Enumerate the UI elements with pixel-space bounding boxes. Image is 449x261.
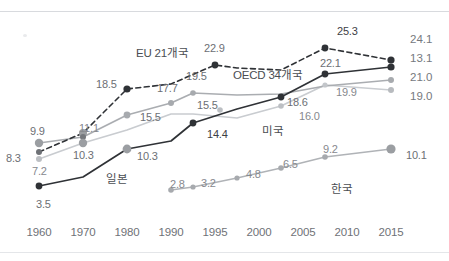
value-label-us-2005: 16.0 xyxy=(299,110,320,122)
series-label-us: 미국 xyxy=(262,122,284,138)
end-label-eu: 24.1 xyxy=(410,33,432,45)
data-point-oecd-2015 xyxy=(388,77,394,83)
data-point-oecd-1990 xyxy=(168,100,174,106)
value-label-japan-1960: 3.5 xyxy=(36,198,51,210)
value-label-us-1970: 10.3 xyxy=(73,149,94,161)
data-point-eu-2010 xyxy=(322,45,329,52)
value-label-eu-2010: 25.3 xyxy=(337,25,358,37)
data-point-eu-1980 xyxy=(123,85,130,92)
data-point-japan-1995 xyxy=(190,120,197,127)
value-label-korea-1995: 3.2 xyxy=(201,177,216,189)
series-label-japan: 일본 xyxy=(106,170,128,186)
value-label-eu-1980: 18.5 xyxy=(96,78,117,90)
value-label-korea-2005: 6.5 xyxy=(283,158,298,170)
end-label-oecd: 21.0 xyxy=(410,71,432,83)
value-label-korea-2015: 10.1 xyxy=(406,149,427,161)
value-label-japan-1995: 14.4 xyxy=(207,128,228,140)
data-point-us-2010 xyxy=(322,82,327,87)
data-point-us-2005 xyxy=(278,103,284,109)
data-point-japan-1960 xyxy=(36,183,43,190)
data-point-us-1960 xyxy=(36,156,42,162)
data-point-oecd-1980 xyxy=(124,112,131,119)
value-label-us-1995: 15.5 xyxy=(197,99,218,111)
data-point-japan-2015 xyxy=(387,63,394,70)
x-axis-tick-1995: 1995 xyxy=(202,226,227,238)
data-point-japan-2005 xyxy=(278,94,285,101)
series-label-eu: EU 21개국 xyxy=(136,44,189,60)
x-axis-tick-2005: 2005 xyxy=(290,226,315,238)
data-point-us-2015 xyxy=(388,87,394,93)
x-axis-tick-2015: 2015 xyxy=(378,226,403,238)
series-label-korea: 한국 xyxy=(331,180,353,196)
value-label-us-1960: 7.2 xyxy=(32,165,47,177)
x-axis-tick-1960: 1960 xyxy=(26,226,51,238)
value-label-oecd-1990: 17.7 xyxy=(157,82,178,94)
value-label-korea-2000: 4.8 xyxy=(246,168,261,180)
data-point-eu-1995 xyxy=(212,62,219,69)
data-point-japan-2010 xyxy=(322,71,329,78)
value-label-eu-1960: 8.3 xyxy=(6,152,21,164)
x-axis-tick-1990: 1990 xyxy=(158,226,183,238)
value-label-oecd-1995: 19.5 xyxy=(186,70,207,82)
data-point-us-1995 xyxy=(217,107,223,113)
x-axis-tick-2010: 2010 xyxy=(334,226,359,238)
value-label-oecd-1970: 11.1 xyxy=(79,122,99,134)
chart-container: EU 21개국 OECD 34개국 미국 일본 한국 9.9 8.3 7.2 3… xyxy=(0,0,449,261)
data-point-us-1970 xyxy=(79,139,87,147)
data-point-oecd-1995 xyxy=(190,90,196,96)
end-label-us: 19.0 xyxy=(410,90,432,102)
series-label-oecd: OECD 34개국 xyxy=(233,66,302,82)
x-axis-tick-1980: 1980 xyxy=(114,226,139,238)
data-point-japan-1980 xyxy=(123,145,132,154)
value-label-korea-2010: 9.2 xyxy=(323,143,338,155)
value-label-us-1990: 15.5 xyxy=(140,111,161,123)
data-point-korea-2010 xyxy=(322,154,328,160)
value-label-japan-2010: 22.1 xyxy=(320,57,341,69)
x-axis-tick-2000: 2000 xyxy=(246,226,271,238)
data-point-oecd-1960 xyxy=(35,139,43,147)
data-point-korea-2000 xyxy=(234,175,239,180)
data-point-eu-2015 xyxy=(387,56,394,63)
value-label-oecd-1960: 9.9 xyxy=(30,125,45,137)
end-label-japan: 13.1 xyxy=(410,52,432,64)
value-label-us-2010: 19.9 xyxy=(336,86,357,98)
data-point-eu-1960 xyxy=(36,149,42,155)
value-label-japan-2005: 18.6 xyxy=(287,96,308,108)
data-point-korea-2015 xyxy=(386,144,395,153)
value-label-japan-1980: 10.3 xyxy=(137,150,158,162)
value-label-eu-1995: 22.9 xyxy=(204,42,225,54)
data-point-korea-1995 xyxy=(190,184,195,189)
value-label-korea-1990: 2.8 xyxy=(170,178,185,190)
x-axis-tick-1970: 1970 xyxy=(70,226,95,238)
